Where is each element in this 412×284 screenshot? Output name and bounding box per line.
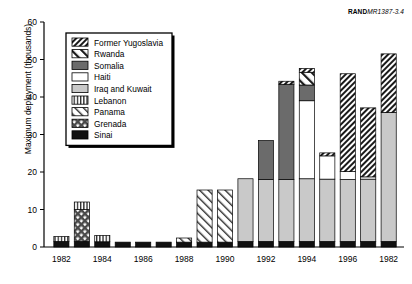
bar-segment	[299, 101, 314, 179]
bar-segment	[177, 238, 192, 242]
legend-swatch	[72, 50, 88, 58]
bar-group	[320, 153, 335, 247]
bar-segment	[115, 242, 130, 247]
bar-segment	[299, 69, 314, 73]
bar-segment	[217, 242, 232, 247]
bar-segment	[258, 180, 273, 242]
legend-swatch	[72, 73, 88, 81]
bar-segment	[361, 108, 376, 177]
bar-group	[177, 238, 192, 247]
chart-root: RANDMR1387-3.4 Maximum deployment (thous…	[0, 0, 412, 284]
legend-swatch	[72, 119, 88, 127]
bar-segment	[177, 242, 192, 247]
legend-label: Iraq and Kuwait	[94, 84, 152, 94]
bar-group	[136, 242, 151, 247]
bar-group	[238, 179, 253, 247]
legend-label: Haiti	[94, 72, 111, 82]
bar-segment	[74, 210, 89, 242]
bar-group	[115, 242, 130, 247]
legend-label: Somalia	[94, 61, 124, 71]
bar-segment	[95, 242, 110, 247]
bar-segment	[279, 84, 294, 179]
x-tick-label: 1988	[175, 254, 194, 264]
legend-swatch	[72, 96, 88, 104]
bar-segment	[381, 241, 396, 247]
bar-segment	[381, 54, 396, 113]
bar-segment	[217, 190, 232, 242]
y-tick-label: 40	[28, 92, 38, 102]
bar-segment	[258, 141, 273, 180]
bar-segment	[54, 241, 69, 247]
bar-segment	[299, 85, 314, 101]
bar-segment	[340, 180, 355, 242]
bar-segment	[74, 202, 89, 210]
bar-segment	[320, 156, 335, 179]
bar-group	[258, 141, 273, 248]
bar-segment	[340, 172, 355, 180]
legend-label: Rwanda	[94, 49, 125, 59]
x-tick-label: 1996	[338, 254, 357, 264]
bar-segment	[156, 242, 171, 247]
bar-segment	[340, 74, 355, 172]
bar-segment	[54, 237, 69, 242]
x-tick-label: 1984	[93, 254, 112, 264]
bar-segment	[340, 241, 355, 247]
bar-segment	[279, 241, 294, 247]
bar-group	[381, 54, 396, 247]
legend-swatch	[72, 61, 88, 69]
bar-group	[299, 69, 314, 248]
bar-group	[361, 108, 376, 247]
bar-segment	[320, 153, 335, 156]
bar-segment	[238, 179, 253, 242]
bar-group	[74, 202, 89, 247]
y-tick-label: 50	[28, 55, 38, 65]
bar-group	[95, 235, 110, 247]
bar-segment	[299, 179, 314, 242]
x-tick-label: 1990	[216, 254, 235, 264]
y-tick-label: 20	[28, 167, 38, 177]
legend-label: Panama	[94, 107, 125, 117]
x-tick-label: 1994	[297, 254, 316, 264]
bar-segment	[361, 179, 376, 241]
x-tick-label: 1982	[379, 254, 398, 264]
bar-segment	[299, 72, 314, 85]
bar-chart-svg: 0102030405060198219841986198819901992199…	[0, 0, 412, 284]
bar-segment	[279, 81, 294, 84]
bar-group	[197, 190, 212, 247]
bar-segment	[197, 190, 212, 242]
bar-segment	[136, 242, 151, 247]
x-tick-label: 1986	[134, 254, 153, 264]
bar-segment	[258, 241, 273, 247]
bar-group	[279, 81, 294, 247]
bar-group	[217, 190, 232, 247]
y-tick-label: 30	[28, 130, 38, 140]
bar-segment	[95, 235, 110, 241]
bar-segment	[197, 242, 212, 247]
legend-swatch	[72, 38, 88, 46]
legend-swatch	[72, 131, 88, 139]
y-tick-label: 10	[28, 205, 38, 215]
x-tick-label: 1982	[52, 254, 71, 264]
bar-group	[54, 237, 69, 248]
legend-swatch	[72, 84, 88, 92]
bar-segment	[74, 241, 89, 247]
bar-segment	[238, 241, 253, 247]
legend-label: Lebanon	[94, 96, 127, 106]
bar-segment	[279, 180, 294, 242]
legend-label: Grenada	[94, 119, 127, 129]
bar-segment	[320, 241, 335, 247]
bar-segment	[299, 241, 314, 247]
bar-group	[340, 74, 355, 247]
y-tick-label: 0	[32, 242, 37, 252]
bar-group	[156, 242, 171, 247]
legend-label: Sinai	[94, 130, 113, 140]
legend-label: Former Yugoslavia	[94, 38, 163, 48]
x-tick-label: 1992	[256, 254, 275, 264]
y-tick-label: 60	[28, 17, 38, 27]
bar-segment	[381, 112, 396, 241]
bar-segment	[361, 241, 376, 247]
bar-segment	[320, 179, 335, 241]
legend-swatch	[72, 108, 88, 116]
